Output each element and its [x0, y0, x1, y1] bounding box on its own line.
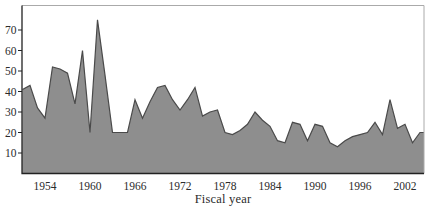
x-tick-label: 2002 — [394, 180, 417, 192]
fiscal-year-area-chart: 1020304050607019541960196619721978198419… — [0, 0, 431, 213]
x-tick-label: 1954 — [34, 180, 57, 192]
x-tick-label: 1984 — [259, 180, 282, 192]
x-tick-label: 1966 — [124, 180, 147, 192]
y-tick-label: 30 — [5, 106, 17, 118]
x-tick-label: 1990 — [304, 180, 327, 192]
y-tick-label: 20 — [5, 127, 17, 139]
data-area — [22, 20, 424, 174]
y-tick-label: 60 — [5, 45, 17, 57]
x-axis-title: Fiscal year — [22, 192, 424, 206]
x-tick-label: 1996 — [349, 180, 372, 192]
chart-canvas: 1020304050607019541960196619721978198419… — [0, 0, 431, 213]
y-tick-label: 40 — [5, 86, 17, 98]
y-tick-label: 70 — [5, 24, 17, 36]
y-tick-label: 10 — [5, 147, 17, 159]
y-tick-label: 50 — [5, 65, 17, 77]
x-tick-label: 1978 — [214, 180, 237, 192]
x-tick-label: 1972 — [169, 180, 192, 192]
x-tick-label: 1960 — [79, 180, 102, 192]
